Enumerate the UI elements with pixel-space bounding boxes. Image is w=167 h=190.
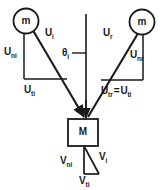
tangential-equality-lhs-subscript2: r	[110, 91, 113, 98]
tangential-equality-relation: =	[114, 85, 120, 96]
incidence-angle-subscript: i	[67, 53, 69, 60]
rebound-mass-label: m	[136, 17, 148, 27]
physics-collision-diagram: m m M Ui Ur Uni Unr Uti Utr=Uti θi Vi Vn…	[0, 0, 167, 190]
incident-tangential-symbol: U	[24, 84, 31, 95]
incident-normal-subscript2: i	[15, 52, 17, 59]
incident-normal-label: Uni	[4, 47, 17, 60]
resultant-tangential-subscript2: i	[88, 181, 90, 188]
rebound-velocity-vector	[88, 30, 140, 117]
resultant-velocity-label: Vi	[99, 152, 107, 165]
resultant-normal-label: Vni	[60, 156, 72, 169]
incidence-angle-label: θi	[62, 48, 69, 61]
incident-velocity-subscript: i	[52, 33, 54, 40]
incident-tangential-label: Uti	[24, 85, 35, 98]
rebound-velocity-symbol: U	[103, 27, 110, 38]
incident-tangential-subscript2: i	[33, 90, 35, 97]
rebound-normal-symbol: U	[130, 49, 137, 60]
incident-normal-symbol: U	[4, 46, 11, 57]
resultant-tangential-label: Vti	[79, 176, 89, 189]
incident-velocity-vector	[31, 27, 84, 117]
rebound-velocity-subscript: r	[110, 33, 113, 40]
rebound-normal-subscript2: r	[141, 55, 144, 62]
tangential-equality-rhs-subscript2: i	[130, 91, 132, 98]
resultant-normal-subscript2: i	[70, 161, 72, 168]
resultant-velocity-vector	[84, 146, 99, 174]
incident-velocity-label: Ui	[45, 28, 54, 41]
rebound-velocity-label: Ur	[103, 28, 113, 41]
resultant-velocity-subscript: i	[105, 157, 107, 164]
incident-mass-label: m	[20, 16, 32, 26]
incident-velocity-symbol: U	[45, 27, 52, 38]
target-mass-label: M	[77, 127, 89, 137]
rebound-normal-label: Unr	[130, 50, 144, 63]
tangential-equality-label: Utr=Uti	[101, 86, 131, 99]
tangential-equality-lhs-symbol: U	[101, 85, 108, 96]
